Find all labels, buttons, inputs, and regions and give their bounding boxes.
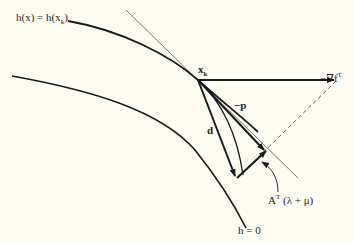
arc-curve xyxy=(198,80,243,175)
level-curve-label: h(x) = h(xk) xyxy=(16,12,68,26)
multiplier-label: AT (λ + μ) xyxy=(268,194,313,206)
projected-label: −p xyxy=(234,100,246,111)
diagram-canvas xyxy=(0,0,354,243)
direction-label: d xyxy=(207,125,213,136)
label-pointer xyxy=(262,162,278,192)
zero-curve-label: h = 0 xyxy=(238,225,261,236)
gradient-label: −∇fT xyxy=(320,72,342,84)
zero-curve xyxy=(12,76,246,228)
point-label: xk xyxy=(198,64,207,78)
level-curve xyxy=(68,21,258,132)
projected-gradient-arrow xyxy=(198,80,264,150)
